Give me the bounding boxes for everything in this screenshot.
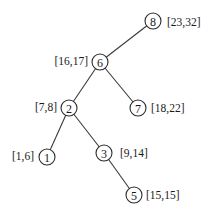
node-interval: [1,6] (12, 150, 34, 163)
node-interval: [15,15] (146, 189, 180, 202)
tree-node-8: 8 [23,32] (145, 13, 201, 29)
edge-8-6 (100, 21, 153, 62)
tree-node-2: 2 [7,8] (35, 100, 77, 116)
node-label: 5 (131, 189, 137, 203)
tree-node-6: 6 [16,17] (54, 54, 108, 70)
tree-node-1: 1 [1,6] (12, 149, 55, 165)
node-label: 1 (44, 151, 50, 165)
node-label: 8 (150, 15, 156, 29)
tree-node-7: 7 [18,22] (130, 100, 185, 116)
node-interval: [16,17] (54, 55, 88, 68)
node-label: 3 (101, 147, 107, 161)
node-interval: [23,32] (167, 16, 201, 29)
node-interval: [9,14] (120, 147, 148, 160)
node-interval: [7,8] (35, 101, 57, 114)
tree-node-3: 3 [9,14] (96, 145, 148, 161)
tree-node-5: 5 [15,15] (126, 187, 180, 203)
tree-diagram: 8 [23,32] 6 [16,17] 2 [7,8] 7 [18,22] 1 … (0, 0, 209, 216)
node-label: 6 (97, 56, 103, 70)
edge-2-3 (69, 108, 104, 153)
node-interval: [18,22] (151, 102, 185, 115)
edge-6-7 (100, 62, 138, 108)
node-label: 7 (135, 102, 141, 116)
node-label: 2 (66, 102, 72, 116)
